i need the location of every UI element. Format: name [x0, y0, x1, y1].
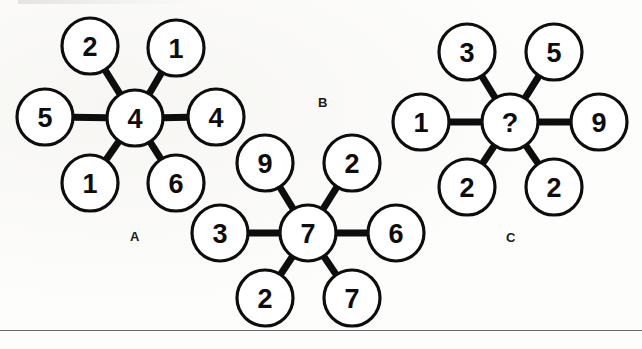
center-node[interactable]: ? [482, 94, 538, 150]
spoke-node-right[interactable]: 9 [571, 94, 627, 150]
spoke-line-bottom-left [105, 140, 119, 161]
center-node[interactable]: 4 [107, 90, 163, 146]
spoke-node-bottom-left-value: 1 [82, 169, 97, 199]
spoke-node-bottom-right[interactable]: 6 [148, 155, 204, 211]
cluster-b-label: B [318, 95, 328, 110]
spoke-node-bottom-right-value: 2 [546, 173, 561, 203]
spoke-line-top-right [149, 71, 163, 94]
cluster-a-label: A [130, 229, 140, 244]
spoke-node-top-right-value: 2 [344, 149, 359, 179]
cluster-c: 351922? [393, 24, 627, 215]
spoke-node-top-left-value: 9 [257, 149, 272, 179]
spoke-line-bottom-right [149, 141, 161, 160]
spoke-node-bottom-left-value: 2 [459, 173, 474, 203]
cluster-c-label: C [506, 230, 516, 245]
center-node[interactable]: 7 [280, 205, 336, 261]
center-node-value: ? [502, 108, 519, 138]
spoke-node-bottom-left[interactable]: 2 [237, 270, 293, 326]
spoke-node-right-value: 6 [388, 219, 403, 249]
spoke-node-right[interactable]: 6 [368, 205, 424, 261]
spoke-node-right-value: 4 [208, 103, 223, 133]
spoke-node-bottom-right[interactable]: 2 [526, 159, 582, 215]
spoke-line-top-right [322, 186, 337, 210]
spoke-node-top-right[interactable]: 2 [324, 135, 380, 191]
spoke-line-bottom-right [323, 255, 337, 275]
spoke-node-bottom-right-value: 6 [168, 169, 183, 199]
puzzle-page: 21541649236277351922? ABC [0, 0, 642, 349]
spoke-line-top-left [279, 186, 294, 210]
footer-divider [0, 330, 642, 331]
spoke-line-top-left [481, 75, 496, 99]
spoke-node-bottom-right-value: 7 [344, 284, 359, 314]
spoke-line-top-right [524, 75, 539, 99]
spoke-node-bottom-left[interactable]: 2 [439, 159, 495, 215]
spoke-line-top-left [104, 69, 120, 95]
spoke-line-bottom-right [525, 144, 539, 164]
spoke-node-top-left-value: 2 [82, 32, 97, 62]
spoke-node-left[interactable]: 1 [393, 94, 449, 150]
spoke-node-top-left[interactable]: 9 [237, 135, 293, 191]
spoke-node-left-value: 5 [37, 103, 52, 133]
spoke-node-bottom-left[interactable]: 1 [62, 155, 118, 211]
spoke-node-left-value: 3 [212, 219, 227, 249]
spoke-node-top-left[interactable]: 2 [62, 18, 118, 74]
spoke-line-bottom-left [482, 145, 495, 165]
spoke-node-right[interactable]: 4 [188, 89, 244, 145]
spoke-node-top-left-value: 3 [459, 38, 474, 68]
spoke-node-top-left[interactable]: 3 [439, 24, 495, 80]
cluster-b: 9236277 [192, 135, 424, 326]
spoke-node-top-right-value: 1 [168, 34, 183, 64]
spoke-line-bottom-left [280, 256, 293, 276]
spoke-node-left[interactable]: 5 [17, 89, 73, 145]
cluster-a: 2154164 [17, 18, 244, 211]
center-node-value: 7 [300, 219, 315, 249]
spoke-node-top-right[interactable]: 1 [148, 20, 204, 76]
number-wheel-diagram: 21541649236277351922? [0, 0, 642, 349]
spoke-node-top-right[interactable]: 5 [526, 24, 582, 80]
spoke-node-left-value: 1 [413, 108, 428, 138]
spoke-node-bottom-left-value: 2 [257, 284, 272, 314]
center-node-value: 4 [127, 104, 142, 134]
spoke-node-bottom-right[interactable]: 7 [324, 270, 380, 326]
spoke-node-right-value: 9 [591, 108, 606, 138]
spoke-node-top-right-value: 5 [546, 38, 561, 68]
spoke-node-left[interactable]: 3 [192, 205, 248, 261]
